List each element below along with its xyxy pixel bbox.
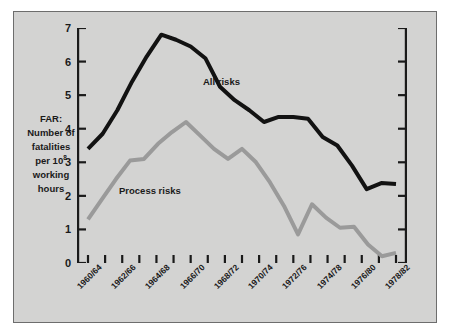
y-tick-marks-right xyxy=(398,28,406,263)
y-caption-line-1: FAR: xyxy=(22,112,80,126)
x-tick-marks xyxy=(88,255,396,263)
y-tick-label: 7 xyxy=(65,23,71,34)
y-tick-label: 4 xyxy=(65,123,71,134)
chart-figure: FAR: Number of fatalities per 108 workin… xyxy=(0,0,452,336)
y-caption-line-4: per 108 xyxy=(22,153,80,168)
y-caption-line-3: fatalities xyxy=(22,140,80,154)
series-label-process-risks: Process risks xyxy=(119,186,181,196)
y-tick-marks xyxy=(78,28,86,263)
y-tick-label: 1 xyxy=(65,224,71,235)
y-tick-label: 0 xyxy=(65,258,71,269)
plot-area: 01234567 1960/641962/661964/681966/70196… xyxy=(77,28,407,263)
y-caption-line-6: hours xyxy=(22,182,80,196)
y-tick-label: 6 xyxy=(65,56,71,67)
y-tick-label: 3 xyxy=(65,157,71,168)
series-label-all-risks: All risks xyxy=(203,77,240,87)
y-tick-label: 5 xyxy=(65,90,71,101)
y-tick-label: 2 xyxy=(65,190,71,201)
data-series-group xyxy=(88,35,396,257)
y-caption-unit-base: per 10 xyxy=(35,155,63,166)
y-caption-line-2: Number of xyxy=(22,126,80,140)
chart-svg xyxy=(77,28,407,263)
y-axis-caption: FAR: Number of fatalities per 108 workin… xyxy=(22,112,80,196)
y-caption-line-5: working xyxy=(22,168,80,182)
series-line xyxy=(88,35,396,189)
